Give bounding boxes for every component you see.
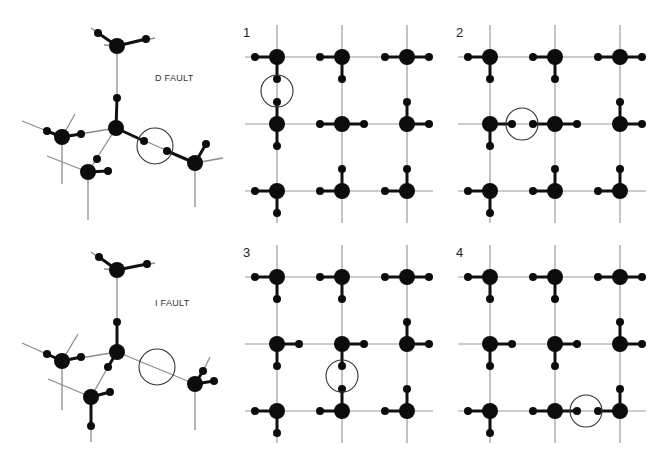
- panel-4: 4: [456, 245, 646, 443]
- lattice-atom: [399, 183, 415, 199]
- lattice-atom: [334, 49, 350, 65]
- lattice-atom: [399, 403, 415, 419]
- lattice-atom: [612, 269, 628, 285]
- lattice-atom: [269, 403, 285, 419]
- lattice-atom: [547, 116, 563, 132]
- lattice-atom: [399, 116, 415, 132]
- lattice-atom: [334, 269, 350, 285]
- i-fault-model: I FAULT: [22, 252, 218, 442]
- d-fault-model: D FAULT: [22, 28, 223, 220]
- lattice-atom: [269, 49, 285, 65]
- panel-number: 4: [456, 245, 463, 260]
- lattice-atom: [269, 269, 285, 285]
- lattice-atom: [547, 336, 563, 352]
- d-fault-label: D FAULT: [155, 73, 194, 83]
- lattice-atom: [334, 336, 350, 352]
- lattice-atom: [399, 336, 415, 352]
- lattice-atom: [547, 269, 563, 285]
- lattice-atom: [482, 336, 498, 352]
- lattice-atom: [334, 116, 350, 132]
- lattice-atom: [482, 49, 498, 65]
- lattice-atom: [399, 269, 415, 285]
- panel-2: 2: [456, 25, 646, 223]
- lattice-atom: [399, 49, 415, 65]
- panel-3: 3: [243, 245, 433, 443]
- stacking-fault-figure: D FAULT: [0, 0, 667, 458]
- lattice-atom: [612, 183, 628, 199]
- lattice-atom: [482, 403, 498, 419]
- lattice-atom: [269, 116, 285, 132]
- lattice-atom: [482, 116, 498, 132]
- i-fault-highlight-circle: [139, 349, 175, 385]
- panel-number: 1: [243, 25, 250, 40]
- lattice-atom: [334, 183, 350, 199]
- lattice-atom: [547, 49, 563, 65]
- lattice-atom: [269, 183, 285, 199]
- lattice-atom: [547, 183, 563, 199]
- lattice-atom: [612, 403, 628, 419]
- d-fault-highlight-circle: [137, 128, 173, 164]
- lattice-atom: [612, 336, 628, 352]
- panel-number: 3: [243, 245, 250, 260]
- lattice-atom: [482, 269, 498, 285]
- lattice-atom: [612, 116, 628, 132]
- panel-1: 1: [243, 25, 433, 223]
- lattice-panels: 1234: [243, 25, 646, 443]
- lattice-atom: [334, 403, 350, 419]
- lattice-atom: [482, 183, 498, 199]
- i-fault-label: I FAULT: [155, 298, 190, 308]
- lattice-atom: [612, 49, 628, 65]
- lattice-atom: [547, 403, 563, 419]
- panel-number: 2: [456, 25, 463, 40]
- lattice-atom: [269, 336, 285, 352]
